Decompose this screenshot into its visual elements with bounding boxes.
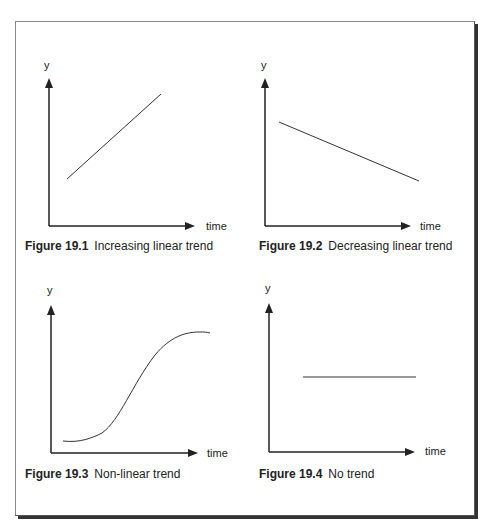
- x-axis-label: time: [425, 445, 446, 457]
- figure-number: Figure 19.1: [25, 239, 88, 253]
- trend-line: [279, 122, 419, 181]
- figure-title: Decreasing linear trend: [328, 239, 452, 253]
- figure-number: Figure 19.2: [259, 239, 322, 253]
- trend-curve: [63, 332, 210, 441]
- y-axis-label: y: [261, 59, 267, 71]
- x-axis-arrow-icon: [401, 222, 411, 230]
- x-axis-arrow-icon: [188, 449, 198, 457]
- figure-19-2: y time Figure 19.2Decreasing linear tren…: [245, 40, 475, 280]
- x-axis-arrow-icon: [185, 222, 195, 230]
- y-axis-label: y: [265, 282, 271, 294]
- y-axis-label: y: [44, 59, 50, 71]
- x-axis-label: time: [207, 447, 228, 459]
- figure-caption: Figure 19.3Non-linear trend: [25, 467, 180, 481]
- y-axis-arrow-icon: [265, 303, 273, 313]
- x-axis-label: time: [420, 220, 441, 232]
- figure-caption: Figure 19.4No trend: [259, 467, 374, 481]
- figure-title: No trend: [328, 467, 374, 481]
- figure-title: Non-linear trend: [94, 467, 180, 481]
- y-axis-arrow-icon: [47, 305, 55, 315]
- figure-19-3: y time Figure 19.3Non-linear trend: [20, 270, 250, 510]
- figure-number: Figure 19.3: [25, 467, 88, 481]
- figure-caption: Figure 19.2Decreasing linear trend: [259, 239, 452, 253]
- x-axis-label: time: [206, 220, 227, 232]
- y-axis-arrow-icon: [45, 78, 53, 88]
- x-axis-arrow-icon: [405, 448, 415, 456]
- trend-line: [67, 94, 161, 179]
- figure-title: Increasing linear trend: [94, 239, 213, 253]
- y-axis-label: y: [47, 284, 53, 296]
- figure-number: Figure 19.4: [259, 467, 322, 481]
- y-axis-arrow-icon: [261, 78, 269, 88]
- figure-19-1: y time Figure 19.1Increasing linear tren…: [20, 40, 250, 280]
- figure-19-4: y time Figure 19.4No trend: [245, 270, 475, 510]
- figure-caption: Figure 19.1Increasing linear trend: [25, 239, 213, 253]
